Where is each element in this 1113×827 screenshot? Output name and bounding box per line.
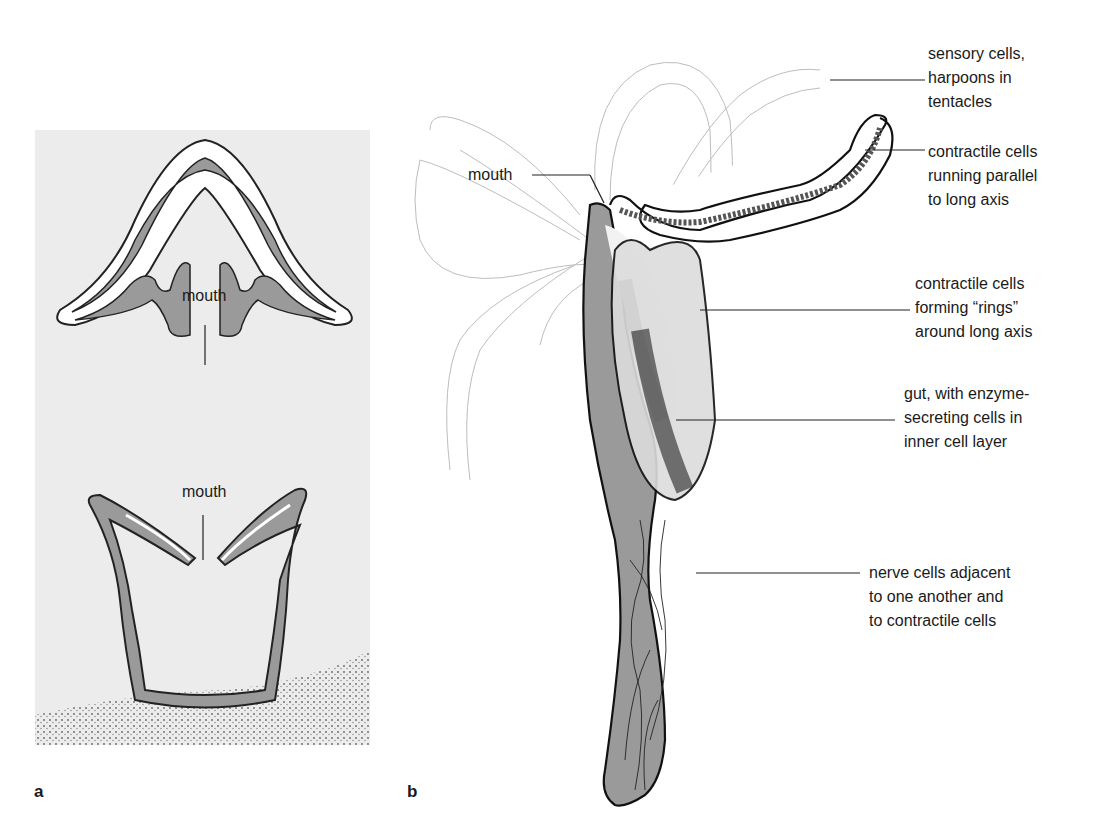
panel-b-label: b (407, 782, 417, 802)
panel-a-bottom-mouth-label: mouth (182, 480, 226, 504)
panel-a: mouth mouth (30, 130, 375, 765)
label-sensory-cells: sensory cells, harpoons in tentacles (928, 42, 1025, 114)
panel-a-illustration (30, 130, 375, 765)
panel-a-label: a (34, 782, 43, 802)
hydra-body (583, 203, 715, 805)
right-tentacle (610, 115, 892, 242)
panel-b: mouth sensory cells, harpoons in tentacl… (400, 0, 1113, 827)
water-background (35, 130, 370, 745)
panel-b-mouth-label: mouth (468, 163, 512, 187)
label-contractile-parallel: contractile cells running parallel to lo… (928, 140, 1037, 212)
label-nerve-cells: nerve cells adjacent to one another and … (869, 561, 1010, 633)
label-contractile-rings: contractile cells forming “rings” around… (915, 272, 1032, 344)
label-gut: gut, with enzyme- secreting cells in inn… (904, 382, 1029, 454)
panel-a-top-mouth-label: mouth (182, 284, 226, 308)
